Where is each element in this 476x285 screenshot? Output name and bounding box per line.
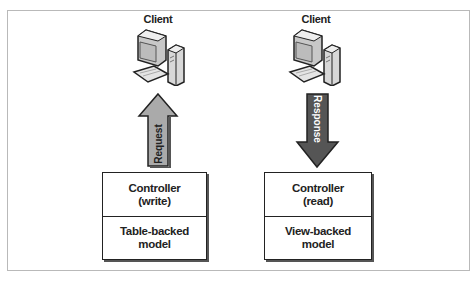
controller-read: Controller (read) [265, 173, 371, 217]
client-label-left: Client [128, 13, 188, 25]
view-backed-model: View-backed model [265, 216, 371, 259]
client-label-right: Client [286, 13, 346, 25]
controller-write: Controller (write) [103, 173, 206, 217]
response-arrow-label: Response [312, 95, 323, 143]
component-box-right: Controller (read) View-backed model [264, 172, 372, 260]
figure-frame [7, 10, 470, 271]
table-backed-model: Table-backed model [103, 216, 206, 259]
request-arrow-up: Request [136, 92, 180, 168]
desktop-computer-icon [288, 28, 342, 86]
desktop-computer-icon [132, 28, 186, 86]
component-box-left: Controller (write) Table-backed model [102, 172, 207, 260]
request-arrow-label: Request [153, 124, 164, 164]
response-arrow-down: Response [295, 92, 341, 170]
